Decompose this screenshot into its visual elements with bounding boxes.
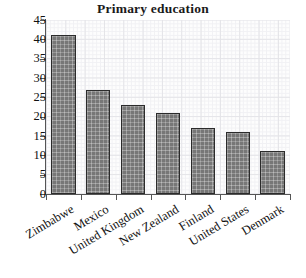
bar-chart: Primary education 051015202530354045 Zim… bbox=[0, 0, 306, 278]
x-axis-tick bbox=[116, 195, 117, 200]
x-axis-tick bbox=[185, 195, 186, 200]
x-axis-tick bbox=[81, 195, 82, 200]
x-axis-tick bbox=[151, 195, 152, 200]
x-axis-tick bbox=[290, 195, 291, 200]
x-axis-labels: ZimbabweMexicoUnited KingdomNew ZealandF… bbox=[0, 0, 306, 278]
x-axis-tick bbox=[220, 195, 221, 200]
x-axis-tick bbox=[46, 195, 47, 200]
x-axis-tick bbox=[255, 195, 256, 200]
